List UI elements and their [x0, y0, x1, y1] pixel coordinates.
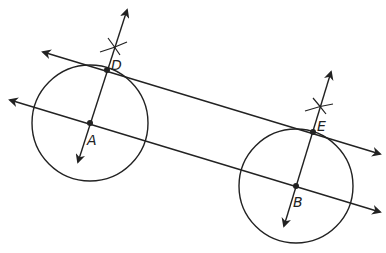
point-B — [293, 183, 299, 189]
perp-AD — [78, 10, 127, 162]
point-D — [104, 67, 110, 73]
point-label-B: B — [293, 194, 303, 210]
point-E — [310, 129, 316, 135]
construction-arcs-group — [100, 38, 333, 114]
point-label-D: D — [111, 57, 122, 73]
perp-BE — [284, 72, 331, 226]
point-label-E: E — [317, 118, 326, 134]
geometry-diagram: DAEB — [0, 0, 386, 253]
line-AB — [10, 100, 380, 212]
point-A — [87, 120, 93, 126]
point-label-A: A — [86, 132, 97, 148]
